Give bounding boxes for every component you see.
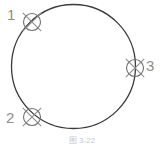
marker-1-circled-x-icon xyxy=(23,13,41,31)
marker-1-label: 1 xyxy=(7,7,15,22)
figure-container: 1 2 3 图 3-22 xyxy=(0,0,164,146)
marker-2-label: 2 xyxy=(6,110,14,125)
circle-diagram-canvas xyxy=(0,0,164,146)
main-circle xyxy=(12,5,136,129)
figure-caption: 图 3-22 xyxy=(0,136,164,145)
marker-3-label: 3 xyxy=(146,58,154,73)
